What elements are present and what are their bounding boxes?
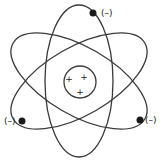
electron-right: (–) [137, 115, 157, 125]
proton-charge: + [80, 72, 88, 82]
electron-dot [137, 117, 144, 124]
electron-dot [90, 10, 97, 17]
proton-charge: + [76, 87, 84, 97]
electron-top: (–) [90, 8, 113, 18]
electron-dot [19, 118, 26, 125]
orbit-vertical [45, 5, 113, 157]
atom-diagram: + + + (–) (–) (–) [0, 0, 168, 163]
proton-charge: + [65, 74, 73, 84]
electron-left: (–) [4, 116, 26, 126]
electron-label: (–) [101, 8, 113, 18]
electron-label: (–) [4, 116, 16, 126]
electron-label: (–) [145, 115, 157, 125]
